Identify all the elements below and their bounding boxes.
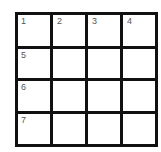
grid-cell-r0-c2[interactable]: 3 [88,15,123,49]
cell-number: 3 [92,17,97,26]
grid-cell-r2-c3[interactable] [123,81,155,114]
cell-number: 6 [21,83,26,92]
grid-cell-r3-c2[interactable] [88,114,123,144]
grid-cell-r2-c2[interactable] [88,81,123,114]
cell-number: 1 [21,17,26,26]
grid-cell-r1-c2[interactable] [88,49,123,81]
grid-cell-r3-c0[interactable]: 7 [18,114,53,144]
grid-cell-r2-c0[interactable]: 6 [18,81,53,114]
grid-cell-r1-c0[interactable]: 5 [18,49,53,81]
grid-cell-r3-c3[interactable] [123,114,155,144]
cell-number: 7 [21,116,26,125]
grid-cell-r3-c1[interactable] [53,114,88,144]
grid-cell-r0-c0[interactable]: 1 [18,15,53,49]
grid-cell-r1-c3[interactable] [123,49,155,81]
grid-cell-r2-c1[interactable] [53,81,88,114]
crossword-grid: 1 2 3 4 5 6 7 [15,12,158,147]
grid-cell-r0-c3[interactable]: 4 [123,15,155,49]
cell-number: 5 [21,51,26,60]
grid-cell-r1-c1[interactable] [53,49,88,81]
grid-cell-r0-c1[interactable]: 2 [53,15,88,49]
cell-number: 2 [57,17,62,26]
cell-number: 4 [127,17,132,26]
